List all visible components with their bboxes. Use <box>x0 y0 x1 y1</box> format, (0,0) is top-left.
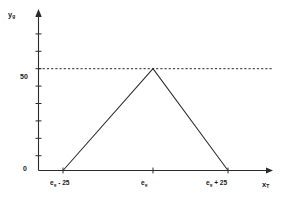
y-axis-title: yg <box>8 11 15 20</box>
y-tick-label-50: 50 <box>20 73 28 80</box>
x-tick-label-right: eg + 25 <box>206 180 227 187</box>
x-tick-label-mid: eg <box>141 180 147 187</box>
x-tick-label-mid-subscript: g <box>145 182 148 187</box>
x-axis-title-subscript: T <box>266 184 269 189</box>
y-axis-arrowhead <box>36 9 42 16</box>
chart-plot-area <box>0 0 284 199</box>
x-axis-title: xT <box>262 181 269 190</box>
x-axis-arrowhead <box>266 168 273 174</box>
x-tick-label-right-offset: + 25 <box>212 179 227 186</box>
y-axis-title-subscript: g <box>12 14 15 19</box>
y-tick-label-0: 0 <box>23 165 27 172</box>
x-tick-label-left-offset: - 25 <box>56 179 69 186</box>
chart-container: yg xT 50 0 eg - 25 eg eg + 25 <box>0 0 284 199</box>
x-tick-label-left: eg - 25 <box>50 180 70 187</box>
series-triangular-function <box>63 69 228 171</box>
